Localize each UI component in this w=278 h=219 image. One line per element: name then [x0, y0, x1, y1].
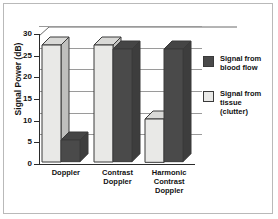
x-axis-category-label: HarmonicContrastDoppler	[136, 168, 202, 195]
legend-label-blood-flow-line1: Signal from	[220, 54, 277, 63]
bar[interactable]	[94, 47, 113, 164]
legend: Signal from blood flow Signal from tissu…	[203, 54, 277, 133]
y-axis-tick-label: 0	[18, 160, 32, 168]
bar[interactable]	[113, 51, 132, 164]
legend-label-blood-flow-line2: blood flow	[220, 63, 277, 72]
bar[interactable]	[164, 51, 183, 164]
chart-frame: 051015202530 Signal Power (dB) DopplerCo…	[3, 3, 273, 214]
x-axis-line	[39, 164, 195, 165]
plot-area	[39, 34, 194, 164]
legend-item-tissue-clutter[interactable]: Signal from tissue (clutter)	[203, 89, 277, 116]
legend-swatch-blood-flow	[203, 56, 214, 67]
legend-swatch-tissue-clutter	[203, 91, 214, 102]
legend-label-tissue-line3: (clutter)	[220, 107, 277, 116]
legend-label-tissue-line1: Signal from	[220, 89, 277, 98]
category-label-line: Contrast	[136, 177, 202, 186]
bar[interactable]	[61, 142, 80, 164]
legend-label-tissue-line2: tissue	[220, 98, 277, 107]
bar[interactable]	[42, 47, 61, 164]
category-label-line: Harmonic	[136, 168, 202, 177]
category-label-line: Doppler	[136, 186, 202, 195]
gridline	[39, 26, 202, 27]
y-axis-title: Signal Power (dB)	[13, 27, 23, 131]
y-axis-tick-label: 5	[18, 138, 32, 146]
legend-item-blood-flow[interactable]: Signal from blood flow	[203, 54, 277, 72]
bar[interactable]	[145, 121, 164, 164]
